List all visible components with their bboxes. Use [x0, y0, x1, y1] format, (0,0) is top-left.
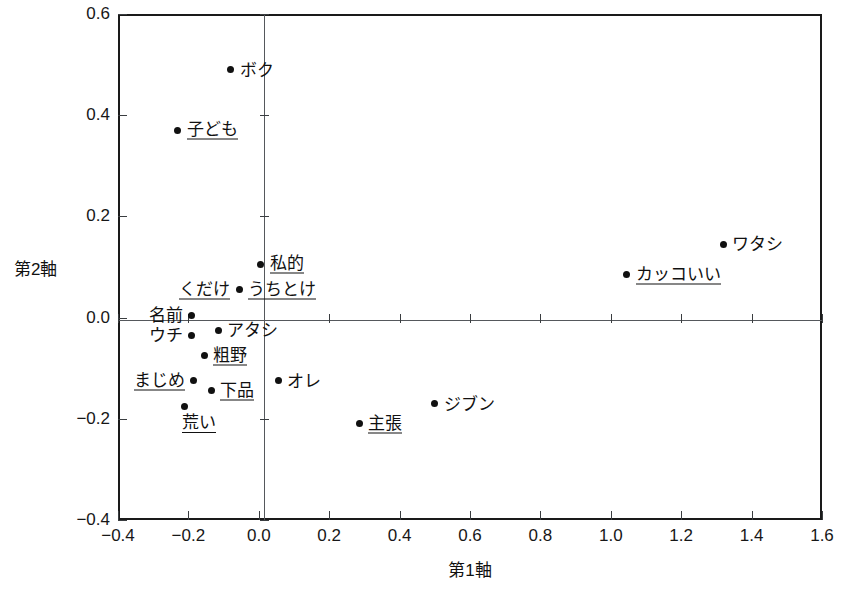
- data-point: [188, 312, 195, 319]
- x-axis-tick-label: 1.6: [810, 526, 834, 546]
- data-point-label: 私的: [270, 255, 304, 274]
- data-point: [275, 377, 282, 384]
- data-point: [201, 352, 208, 359]
- data-point-label: くだけ: [179, 280, 230, 299]
- data-point-label: 荒い: [182, 414, 216, 433]
- y-axis-inner-tick: [260, 14, 269, 15]
- x-axis-tick: [118, 511, 119, 520]
- data-point-label: オレ: [287, 372, 321, 389]
- x-axis-tick-label: 0.6: [458, 526, 482, 546]
- data-point-label: アタシ: [227, 322, 278, 339]
- x-axis-inner-tick: [681, 314, 682, 323]
- x-axis-tick-label: 0.2: [317, 526, 341, 546]
- x-axis-tick: [400, 511, 401, 520]
- data-point-label: ボク: [240, 61, 274, 78]
- data-point: [720, 241, 727, 248]
- x-axis-tick: [329, 511, 330, 520]
- data-point: [215, 327, 222, 334]
- data-point-label: 子ども: [187, 121, 238, 140]
- x-axis-tick: [822, 511, 823, 520]
- x-axis-tick-label: 1.2: [669, 526, 693, 546]
- x-axis-tick-label: −0.2: [172, 526, 206, 546]
- data-point: [356, 420, 363, 427]
- y-axis-tick: [118, 318, 127, 319]
- scatter-plot: −0.4−0.20.00.20.40.60.81.01.21.41.60.60.…: [0, 0, 848, 600]
- x-axis-inner-tick: [611, 314, 612, 323]
- x-axis-tick: [188, 511, 189, 520]
- data-point-label: 名前: [149, 307, 183, 324]
- vertical-zero-axis-line: [264, 14, 265, 520]
- data-point-label: ウチ: [149, 327, 183, 344]
- x-axis-inner-tick: [540, 314, 541, 323]
- y-axis-tick-label: 0.0: [86, 308, 110, 328]
- y-axis-tick: [118, 520, 127, 521]
- x-axis-inner-tick: [752, 314, 753, 323]
- x-axis-tick: [259, 511, 260, 520]
- data-point-label: カッコいい: [636, 265, 721, 284]
- data-point-label: 主張: [368, 414, 402, 433]
- x-axis-tick-label: 0.4: [388, 526, 412, 546]
- x-axis-tick-label: 0.0: [247, 526, 271, 546]
- data-point: [181, 403, 188, 410]
- x-axis-tick: [681, 511, 682, 520]
- y-axis-tick: [118, 419, 127, 420]
- y-axis-inner-tick: [260, 419, 269, 420]
- x-axis-tick-label: 0.8: [529, 526, 553, 546]
- y-axis-inner-tick: [260, 520, 269, 521]
- data-point-label: ワタシ: [732, 236, 783, 253]
- x-axis-inner-tick: [470, 314, 471, 323]
- data-point-label: うちとけ: [248, 280, 316, 299]
- x-axis-tick-label: 1.0: [599, 526, 623, 546]
- data-point-label: まじめ: [134, 371, 185, 390]
- x-axis-tick: [752, 511, 753, 520]
- y-axis-tick: [118, 14, 127, 15]
- x-axis-tick-label: 1.4: [740, 526, 764, 546]
- x-axis-inner-tick: [329, 314, 330, 323]
- x-axis-tick: [540, 511, 541, 520]
- x-axis-title: 第1軸: [448, 556, 491, 581]
- data-point-label: 粗野: [213, 346, 247, 365]
- x-axis-tick: [611, 511, 612, 520]
- y-axis-tick-label: 0.4: [86, 105, 110, 125]
- y-axis-tick: [118, 115, 127, 116]
- y-axis-inner-tick: [260, 115, 269, 116]
- y-axis-tick-label: 0.2: [86, 206, 110, 226]
- x-axis-inner-tick: [822, 314, 823, 323]
- x-axis-inner-tick: [400, 314, 401, 323]
- y-axis-title: 第2軸: [14, 255, 57, 280]
- y-axis-inner-tick: [260, 216, 269, 217]
- y-axis-tick-label: −0.2: [76, 409, 110, 429]
- y-axis-tick-label: −0.4: [76, 510, 110, 530]
- data-point-label: ジブン: [444, 395, 495, 412]
- data-point: [257, 261, 264, 268]
- y-axis-tick: [118, 216, 127, 217]
- y-axis-tick-label: 0.6: [86, 4, 110, 24]
- x-axis-tick: [470, 511, 471, 520]
- data-point-label: 下品: [220, 381, 254, 400]
